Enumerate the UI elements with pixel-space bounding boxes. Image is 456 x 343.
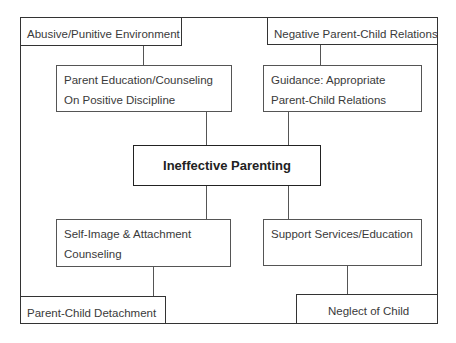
intervention-box-bottom-right: Support Services/Education	[263, 219, 422, 266]
connector-tl-problem-to-intervention	[143, 45, 144, 65]
problem-box-top-right: Negative Parent-Child Relations	[267, 17, 438, 45]
connector-center-to-bl-intervention	[206, 185, 207, 219]
intervention-box-top-right: Guidance: Appropriate Parent-Child Relat…	[263, 65, 422, 112]
connector-br-intervention-to-problem	[347, 265, 348, 294]
problem-box-bottom-left: Parent-Child Detachment	[20, 296, 166, 324]
intervention-line: Parent-Child Relations	[271, 90, 421, 110]
intervention-box-top-left: Parent Education/Counseling On Positive …	[56, 65, 232, 112]
problem-label: Negative Parent-Child Relations	[274, 28, 438, 40]
intervention-line: On Positive Discipline	[64, 90, 231, 110]
problem-label: Abusive/Punitive Environment	[27, 28, 180, 40]
problem-box-bottom-right: Neglect of Child	[296, 294, 438, 324]
problem-label: Neglect of Child	[328, 305, 409, 317]
connector-tr-intervention-to-center	[288, 111, 289, 145]
connector-tl-intervention-to-center	[206, 111, 207, 145]
intervention-line: Guidance: Appropriate	[271, 70, 421, 90]
central-problem-box: Ineffective Parenting	[133, 145, 321, 186]
intervention-line: Self-Image & Attachment	[64, 224, 230, 244]
intervention-line: Parent Education/Counseling	[64, 70, 231, 90]
problem-label: Parent-Child Detachment	[27, 307, 156, 319]
intervention-line: Counseling	[64, 244, 230, 264]
connector-center-to-br-intervention	[288, 185, 289, 219]
connector-bl-intervention-to-problem	[153, 266, 154, 296]
problem-box-top-left: Abusive/Punitive Environment	[20, 17, 182, 46]
central-problem-label: Ineffective Parenting	[163, 159, 291, 173]
intervention-box-bottom-left: Self-Image & Attachment Counseling	[56, 219, 231, 267]
intervention-line: Support Services/Education	[271, 224, 421, 244]
connector-tr-problem-to-intervention	[320, 44, 321, 65]
